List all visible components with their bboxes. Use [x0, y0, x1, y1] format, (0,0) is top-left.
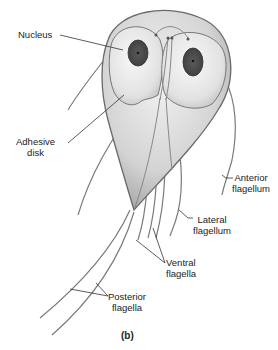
label-adhesive-disk: Adhesive disk: [16, 136, 55, 158]
lateral-flagellum-leader: [179, 210, 193, 218]
label-lateral-flagellum: Lateral flagellum: [193, 214, 231, 236]
figure-caption: (b): [121, 330, 134, 341]
label-ventral-flagella: Ventral flagella: [166, 257, 196, 279]
label-posterior-flagella: Posterior flagella: [108, 291, 146, 313]
label-nucleus: Nucleus: [18, 29, 52, 40]
posterior-flagellum-path-2: [52, 212, 134, 335]
label-anterior-flagellum: Anterior flagellum: [232, 172, 270, 194]
